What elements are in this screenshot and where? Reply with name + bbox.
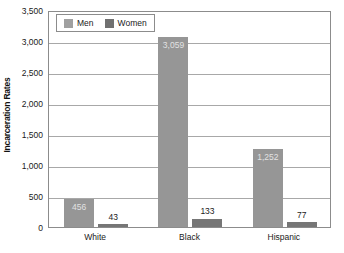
y-axis-tick-label: 2,000 [22,99,43,109]
bar-value-label: 77 [297,211,306,220]
y-axis-title-text: Incarceration Rates [2,77,12,152]
bar-white-women: 43 [98,224,128,227]
bar-value-label: 456 [72,203,86,212]
x-axis-category-labels: WhiteBlackHispanic [48,232,331,248]
plot-area: 456433,0591331,25277 [48,11,331,228]
bar-hispanic-women: 77 [287,222,317,227]
bar-group-black: 3,059133 [143,12,237,227]
bar-black-men: 3,059 [158,37,188,227]
x-axis-label-white: White [84,232,106,242]
bar-value-label: 43 [108,213,117,222]
y-axis-tick-label: 3,500 [22,6,43,16]
legend-item-women: Women [105,18,147,28]
y-axis-tick-label: 2,500 [22,68,43,78]
bar-group-hispanic: 1,25277 [238,12,331,227]
bar-value-label: 1,252 [257,153,278,162]
y-axis-tick-label: 0 [38,223,43,233]
y-axis-tick-label: 500 [29,192,43,202]
bar-value-label: 3,059 [163,41,184,50]
x-axis-label-hispanic: Hispanic [268,232,301,242]
bars-layer: 456433,0591331,25277 [49,12,330,227]
bar-white-men: 456 [64,199,94,227]
y-axis-tick-label: 1,000 [22,161,43,171]
legend-label-men: Men [77,18,94,28]
bar-chart: Incarceration Rates 05001,0001,5002,0002… [0,0,344,253]
bar-value-label: 133 [200,207,214,216]
legend-swatch-men-icon [64,19,73,28]
y-axis-title: Incarceration Rates [0,0,14,230]
bar-black-women: 133 [192,219,222,227]
legend-label-women: Women [118,18,147,28]
legend-swatch-women-icon [105,19,114,28]
bar-hispanic-men: 1,252 [253,149,283,227]
y-axis-tick-label: 1,500 [22,130,43,140]
bar-group-white: 45643 [49,12,143,227]
legend-item-men: Men [64,18,94,28]
y-axis-tick-label: 3,000 [22,37,43,47]
x-axis-label-black: Black [179,232,200,242]
y-axis-tick-labels: 05001,0001,5002,0002,5003,0003,500 [14,0,46,253]
legend: Men Women [56,14,155,32]
